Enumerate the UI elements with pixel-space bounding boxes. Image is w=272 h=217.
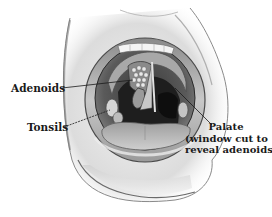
palate-label: Palate (window cut to reveal adenoids) xyxy=(185,121,267,156)
tonsils-label: Tonsils xyxy=(27,121,68,133)
palate-label-line1: Palate xyxy=(185,121,267,133)
palate-label-line2: (window cut to xyxy=(185,133,267,145)
palate-label-line3: reveal adenoids) xyxy=(185,144,267,156)
adenoids-label: Adenoids xyxy=(11,82,65,94)
mouth-illustration xyxy=(0,0,272,217)
anatomy-figure xyxy=(0,0,272,217)
